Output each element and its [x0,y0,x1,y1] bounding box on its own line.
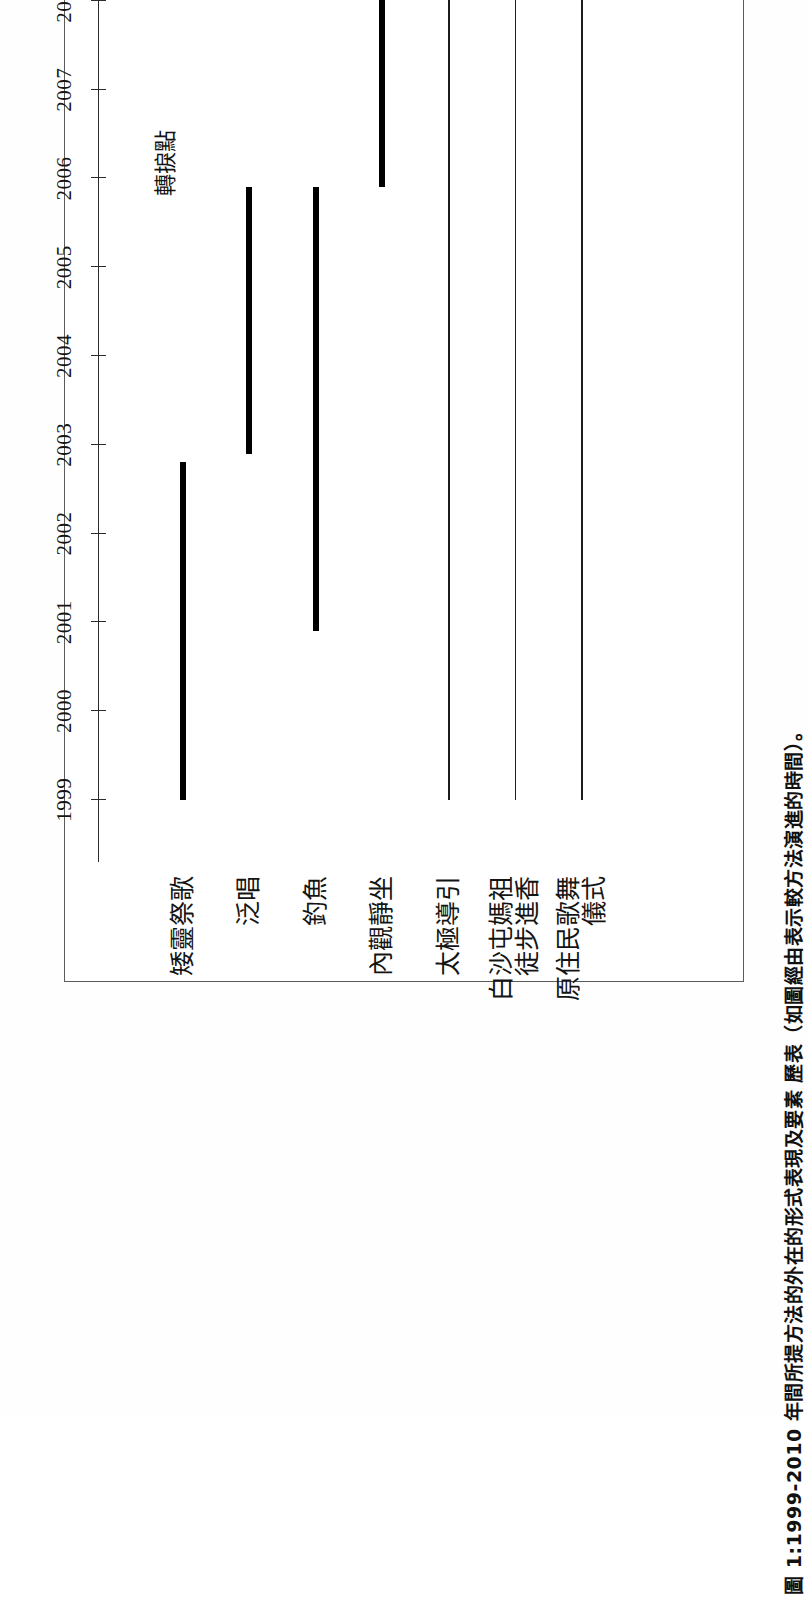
gantt-bar [581,0,582,800]
gantt-row-label-line1: 原住民歌舞 [554,876,583,1001]
axis-tick-label: 2008 [52,0,77,23]
axis-tick [91,355,106,356]
gantt-bar [313,187,319,631]
gantt-row-label: 太極導引 [436,876,462,976]
axis-tick-label: 2002 [52,512,77,556]
gantt-row-label: 內觀靜坐 [369,876,395,976]
gantt-bar [515,0,516,800]
axis-tick-label: 2001 [52,600,77,644]
gantt-row-label-line1: 太極導引 [434,876,463,976]
gantt-row-label-line1: 內觀靜坐 [367,876,396,976]
axis-tick-label: 2004 [52,334,77,378]
gantt-row-label: 白沙屯媽祖徒步進香 [489,876,541,1001]
axis-tick [91,177,106,178]
gantt-bar [448,0,449,800]
axis-tick [91,266,106,267]
gantt-row-label: 泛唱 [236,876,262,926]
axis-tick-label: 2000 [52,689,77,733]
gantt-bar [379,0,385,187]
gantt-row-label-line1: 白沙屯媽祖 [487,876,516,1001]
axis-tick-label: 2007 [52,68,77,112]
gantt-row-label: 釣魚 [303,876,329,926]
axis-tick [91,89,106,90]
axis-tick-label: 1999 [52,778,77,822]
axis-tick [91,444,106,445]
turning-point-annotation: 轉捩點 [147,130,179,196]
gantt-row-label-line1: 釣魚 [301,876,330,926]
figure-rotated-container: 1999200020012002200320042005200620072008… [64,0,744,982]
gantt-row-label: 原住民歌舞儀式 [556,876,608,1001]
axis-tick [91,0,106,1]
axis-tick-label: 2006 [52,156,77,200]
gantt-row-label-line2: 儀式 [582,876,608,1001]
gantt-bar [246,187,252,453]
gantt-bar [180,463,186,800]
axis-tick-label: 2003 [52,423,77,467]
axis-tick [91,710,106,711]
axis-tick [91,799,106,800]
axis-tick [91,621,106,622]
gantt-row-label-line1: 泛唱 [234,876,263,926]
figure-caption-text: 圖 1:1999-2010 年間所提方法的外在的形式表現及要素 歷表（如圖經由表… [779,721,806,1595]
gantt-row-label-line2: 徒步進香 [515,876,541,1001]
gantt-row-label-line1: 矮靈祭歌 [168,876,197,976]
time-axis-line [98,0,99,862]
gantt-plot-area: 1999200020012002200320042005200620072008… [98,0,612,862]
axis-tick [91,533,106,534]
axis-tick-label: 2005 [52,245,77,289]
gantt-row-label: 矮靈祭歌 [170,876,196,976]
